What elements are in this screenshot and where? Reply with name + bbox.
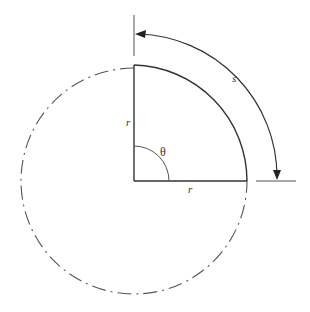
label-angle-theta: θ <box>160 145 166 159</box>
arrowhead-top-icon <box>135 30 146 38</box>
label-radius-horizontal: r <box>188 183 193 195</box>
diagram-svg: r r θ s <box>0 0 310 312</box>
quarter-arc <box>134 65 247 181</box>
arc-length-diagram: r r θ s <box>0 0 310 312</box>
label-arc-length: s <box>232 72 236 84</box>
arrowhead-bottom-icon <box>273 170 281 180</box>
label-radius-vertical: r <box>126 116 131 128</box>
